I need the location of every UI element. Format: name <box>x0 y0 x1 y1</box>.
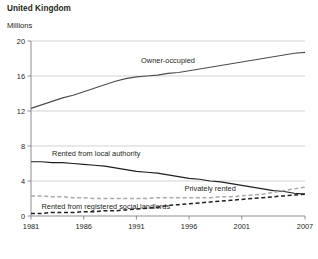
x-tick-label: 1986 <box>75 222 91 231</box>
y-tick-label: 12 <box>17 107 25 116</box>
series-annotation-label: Owner-occupied <box>141 56 195 65</box>
y-tick-label: 20 <box>17 37 25 46</box>
y-tick-label: 8 <box>21 142 25 151</box>
x-axis-ticks-group: 198119861991199620012007 <box>23 216 313 231</box>
series-annotation-label: Privately rented <box>184 184 235 193</box>
x-tick-label: 1991 <box>128 222 144 231</box>
series-lines-group <box>31 52 305 213</box>
chart-container: United Kingdom Millions 048121620 198119… <box>0 0 318 259</box>
x-tick-label: 2007 <box>297 222 313 231</box>
x-tick-label: 1996 <box>181 222 197 231</box>
y-tick-label: 16 <box>17 72 25 81</box>
y-tick-label: 4 <box>21 177 25 186</box>
y-tick-label: 0 <box>21 212 25 221</box>
series-annotations-group: Owner-occupiedRented from local authorit… <box>42 56 236 212</box>
x-tick-label: 1981 <box>23 222 39 231</box>
series-line-1 <box>31 162 305 194</box>
axis-lines-group <box>31 41 305 216</box>
series-annotation-label: Rented from registered social landlords <box>42 202 171 211</box>
y-axis-ticks-group: 048121620 <box>17 37 31 221</box>
series-annotation-label: Rented from local authority <box>52 149 141 158</box>
x-tick-label: 2001 <box>234 222 250 231</box>
line-chart-svg: 048121620 198119861991199620012007 Owner… <box>0 0 318 259</box>
